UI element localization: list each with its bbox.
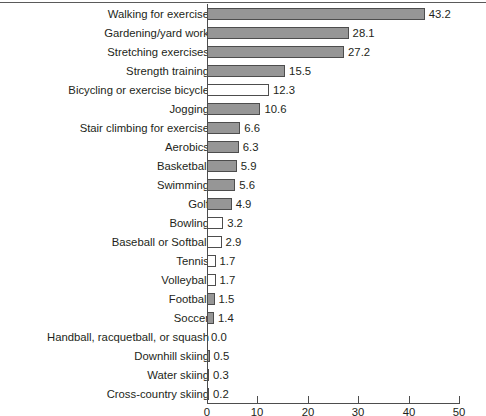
category-label: Bowling [169, 214, 209, 233]
bar-value-label: 1.4 [218, 309, 234, 328]
category-label: Tennis [176, 252, 209, 271]
bar-row: Stair climbing for exercise6.6 [0, 119, 486, 138]
bar-value-label: 43.2 [429, 5, 451, 24]
x-axis-line [207, 403, 460, 404]
category-label: Soccer [174, 309, 209, 328]
bar-value-label: 28.1 [353, 24, 375, 43]
bar [207, 46, 344, 58]
bar-row: Tennis1.7 [0, 252, 486, 271]
bar-value-label: 0.2 [213, 385, 229, 404]
bar-row: Gardening/yard work28.1 [0, 24, 486, 43]
category-label: Bicycling or exercise bicycle [68, 81, 209, 100]
bar-value-label: 0.5 [214, 347, 230, 366]
category-label: Water skiing [147, 366, 209, 385]
bar-value-label: 0.0 [211, 328, 227, 347]
bar-value-label: 15.5 [289, 62, 311, 81]
bar-row: Bicycling or exercise bicycle12.3 [0, 81, 486, 100]
category-label: Golf [188, 195, 209, 214]
bar [207, 274, 216, 286]
bar-value-label: 12.3 [273, 81, 295, 100]
bar-value-label: 1.5 [219, 290, 235, 309]
category-label: Gardening/yard work [104, 24, 209, 43]
category-label: Football [169, 290, 209, 309]
bar [207, 217, 223, 229]
category-label: Aerobics [165, 138, 209, 157]
bar-value-label: 1.7 [220, 252, 236, 271]
bar [207, 103, 260, 115]
bar-row: Cross-country skiing0.2 [0, 385, 486, 404]
bar-value-label: 4.9 [236, 195, 252, 214]
bar [207, 255, 216, 267]
x-axis-tick-label: 40 [389, 406, 429, 416]
bar [207, 293, 215, 305]
category-label: Baseball or Softball [112, 233, 209, 252]
category-label: Handball, racquetball, or squash [47, 328, 209, 347]
bar [207, 236, 222, 248]
category-label: Walking for exercise [108, 5, 209, 24]
bar [207, 312, 214, 324]
category-label: Strength training [126, 62, 209, 81]
x-axis-tick-label: 0 [187, 406, 227, 416]
bar-value-label: 10.6 [264, 100, 286, 119]
category-label: Volleyball [161, 271, 209, 290]
category-label: Swimming [157, 176, 209, 195]
category-label: Stretching exercises [107, 43, 209, 62]
bar [207, 179, 235, 191]
bar-row: Swimming5.6 [0, 176, 486, 195]
bar [207, 27, 349, 39]
bar [207, 198, 232, 210]
bar-value-label: 5.6 [239, 176, 255, 195]
bar [207, 65, 285, 77]
bar [207, 122, 240, 134]
x-axis-tick [459, 396, 460, 403]
bar-row: Jogging10.6 [0, 100, 486, 119]
y-axis-line [207, 4, 208, 403]
bar-row: Downhill skiing0.5 [0, 347, 486, 366]
x-axis-tick [308, 396, 309, 403]
category-label: Downhill skiing [134, 347, 209, 366]
x-axis-tick [409, 396, 410, 403]
category-label: Basketball [157, 157, 209, 176]
bar-value-label: 1.7 [220, 271, 236, 290]
x-axis-tick-label: 30 [338, 406, 378, 416]
bar-row: Basketball5.9 [0, 157, 486, 176]
bar-row: Soccer1.4 [0, 309, 486, 328]
bar-value-label: 6.6 [244, 119, 260, 138]
bar [207, 84, 269, 96]
bar-value-label: 5.9 [241, 157, 257, 176]
category-label: Stair climbing for exercise [80, 119, 209, 138]
bar-chart: Walking for exercise43.2Gardening/yard w… [0, 0, 486, 416]
bar-row: Strength training15.5 [0, 62, 486, 81]
category-label: Jogging [169, 100, 209, 119]
bar-row: Football1.5 [0, 290, 486, 309]
x-axis-tick-label: 20 [288, 406, 328, 416]
x-axis-tick [257, 396, 258, 403]
bar-value-label: 0.3 [213, 366, 229, 385]
bar-value-label: 27.2 [348, 43, 370, 62]
bar-row: Water skiing0.3 [0, 366, 486, 385]
x-axis-tick-label: 10 [237, 406, 277, 416]
bar-value-label: 3.2 [227, 214, 243, 233]
bar-value-label: 6.3 [243, 138, 259, 157]
bar [207, 8, 425, 20]
bar [207, 141, 239, 153]
bar-value-label: 2.9 [226, 233, 242, 252]
bar-row: Golf4.9 [0, 195, 486, 214]
bar [207, 160, 237, 172]
bar-row: Aerobics6.3 [0, 138, 486, 157]
bar-row: Baseball or Softball2.9 [0, 233, 486, 252]
bar-row: Walking for exercise43.2 [0, 5, 486, 24]
bar-row: Handball, racquetball, or squash0.0 [0, 328, 486, 347]
bar-row: Bowling3.2 [0, 214, 486, 233]
bar-row: Volleyball1.7 [0, 271, 486, 290]
x-axis-tick [358, 396, 359, 403]
bar-row: Stretching exercises27.2 [0, 43, 486, 62]
x-axis-tick-label: 50 [439, 406, 479, 416]
category-label: Cross-country skiing [107, 385, 209, 404]
plot-area: Walking for exercise43.2Gardening/yard w… [0, 0, 486, 416]
